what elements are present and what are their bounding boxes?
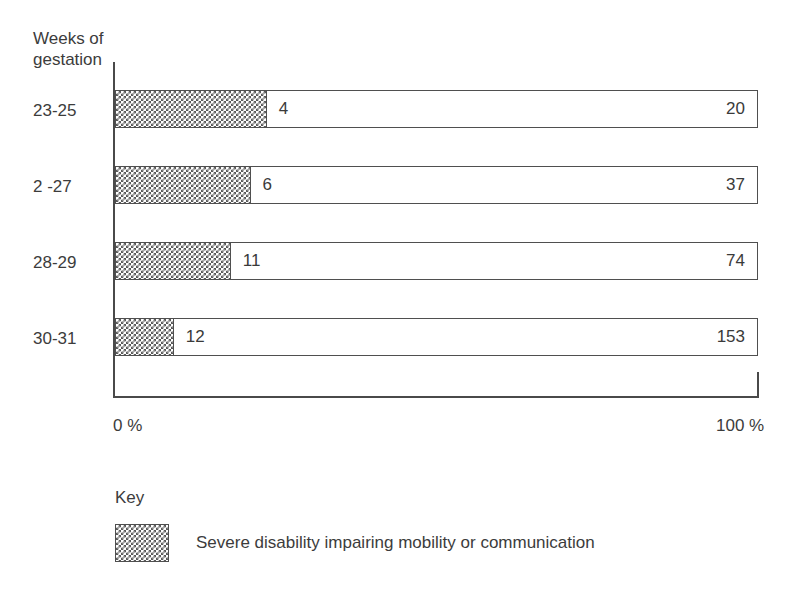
category-label: 2 -27: [33, 177, 107, 197]
bar-row: 12 153: [115, 318, 758, 356]
y-axis-title-line-2: gestation: [33, 50, 102, 69]
y-axis-title-line-1: Weeks of: [33, 29, 104, 48]
bar-row: 4 20: [115, 90, 758, 128]
x-axis-line: [113, 396, 759, 398]
bar-row: 11 74: [115, 242, 758, 280]
stacked-bar-chart: Weeks ofgestation 23-25 2 -27 28-29 30-3…: [0, 0, 803, 602]
bar-segment-severe-disability: [116, 167, 251, 203]
category-label: 23-25: [33, 101, 107, 121]
bar-value-hatched: 11: [243, 251, 261, 271]
bar-segment-severe-disability: [116, 243, 231, 279]
bar-value-hatched: 4: [279, 99, 288, 119]
x-axis-end-tick: [757, 372, 759, 398]
legend-title: Key: [115, 488, 144, 508]
bar-value-open: 74: [726, 251, 745, 271]
legend-swatch-severe-disability: [115, 524, 169, 562]
legend-label-severe-disability: Severe disability impairing mobility or …: [196, 533, 595, 553]
bar-value-open: 20: [726, 99, 745, 119]
category-label: 30-31: [33, 329, 107, 349]
bar-segment-severe-disability: [116, 91, 267, 127]
bar-segment-severe-disability: [116, 319, 174, 355]
bar-value-hatched: 6: [263, 175, 272, 195]
x-axis-tick-min: 0 %: [113, 416, 142, 436]
bar-value-hatched: 12: [186, 327, 205, 347]
bar-value-open: 37: [726, 175, 745, 195]
category-label: 28-29: [33, 253, 107, 273]
bar-value-open: 153: [717, 327, 745, 347]
x-axis-tick-max: 100 %: [716, 416, 764, 436]
bar-row: 6 37: [115, 166, 758, 204]
y-axis-title: Weeks ofgestation: [33, 28, 104, 70]
